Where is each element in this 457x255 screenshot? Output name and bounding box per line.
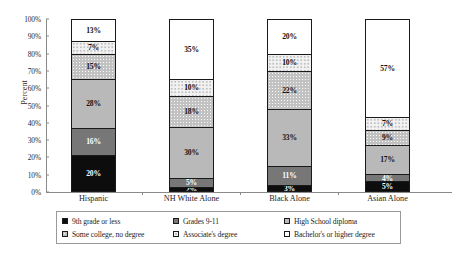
- y-axis-labels: 0%10%20%30%40%50%60%70%80%90%100%: [0, 0, 46, 255]
- bar-segment-value-label: 22%: [282, 87, 297, 95]
- y-axis-tick-label: 70%: [28, 66, 41, 75]
- y-axis-tick-label: 30%: [28, 136, 41, 145]
- y-axis-tick-label: 90%: [28, 32, 41, 41]
- bar-segment: 17%: [366, 146, 409, 175]
- bar-segment: 15%: [72, 55, 115, 81]
- y-axis-tick-mark: [46, 140, 49, 141]
- legend-label: Grades 9-11: [183, 217, 219, 226]
- legend-swatch-icon: [62, 231, 68, 237]
- y-axis-tick-mark: [46, 105, 49, 106]
- x-axis-line: [46, 192, 452, 193]
- bar-segment-value-label: 5%: [382, 183, 393, 191]
- bar-segment-value-label: 18%: [184, 108, 199, 116]
- legend-swatch-icon: [173, 231, 179, 237]
- stacked-bar: 13%7%15%28%16%20%: [71, 19, 116, 192]
- x-axis-category-label: NH White Alone: [144, 194, 239, 203]
- bar-segment-value-label: 20%: [282, 33, 297, 41]
- bar-segment-value-label: 28%: [86, 100, 101, 108]
- bar-segment: 10%: [170, 80, 213, 97]
- bar-segment: 5%: [366, 182, 409, 191]
- bar-segment-value-label: 16%: [86, 138, 101, 146]
- legend-item[interactable]: High School diploma: [284, 215, 395, 228]
- stacked-bar: 35%10%18%30%5%2%: [169, 19, 214, 192]
- chart-figure: 0%10%20%30%40%50%60%70%80%90%100% Percen…: [0, 0, 457, 255]
- x-axis-category-label: Asian Alone: [340, 194, 435, 203]
- legend-swatch-icon: [284, 218, 290, 224]
- y-axis-tick-mark: [46, 19, 49, 20]
- y-axis-tick-label: 50%: [28, 101, 41, 110]
- stacked-bar: 57%7%9%17%4%5%: [365, 19, 410, 192]
- bar-segment: 33%: [268, 110, 311, 167]
- bar-segment: 57%: [366, 20, 409, 118]
- bar-segment: 4%: [366, 175, 409, 182]
- bar-segment: 2%: [170, 188, 213, 191]
- y-axis-tick-mark: [46, 192, 49, 193]
- y-axis-tick-label: 10%: [28, 170, 41, 179]
- y-axis-tick-label: 20%: [28, 153, 41, 162]
- x-axis-tick-mark: [142, 192, 143, 195]
- bar-segment-value-label: 7%: [88, 44, 99, 52]
- bar-segment: 10%: [268, 55, 311, 72]
- bar-segment-value-label: 7%: [382, 120, 393, 128]
- bar-segment-value-label: 30%: [184, 149, 199, 157]
- bar-segment: 18%: [170, 97, 213, 128]
- bar-segment: 7%: [72, 42, 115, 54]
- y-axis-tick-mark: [46, 122, 49, 123]
- x-axis-tick-mark: [338, 192, 339, 195]
- y-axis-title: Percent: [20, 63, 29, 123]
- bar-segment: 9%: [366, 131, 409, 147]
- chart-legend: 9th grade or lessGrades 9-11High School …: [56, 211, 401, 244]
- bar-segment: 3%: [268, 186, 311, 191]
- x-axis-tick-mark: [240, 192, 241, 195]
- legend-item[interactable]: Associate's degree: [173, 228, 284, 241]
- legend-swatch-icon: [284, 231, 290, 237]
- y-axis-tick-mark: [46, 174, 49, 175]
- bar-segment-value-label: 3%: [284, 186, 295, 191]
- legend-item[interactable]: Bachelor's or higher degree: [284, 228, 395, 241]
- legend-item[interactable]: Some college, no degree: [62, 228, 173, 241]
- bar-segment-value-label: 17%: [380, 156, 395, 164]
- legend-label: Some college, no degree: [72, 230, 144, 239]
- legend-label: 9th grade or less: [72, 217, 120, 226]
- bar-segment: 28%: [72, 80, 115, 128]
- y-axis-tick-label: 40%: [28, 118, 41, 127]
- bar-segment-value-label: 10%: [184, 84, 199, 92]
- bar-segment: 30%: [170, 128, 213, 179]
- bar-segment-value-label: 11%: [282, 172, 296, 180]
- y-axis-tick-label: 0%: [31, 188, 41, 197]
- legend-swatch-icon: [62, 218, 68, 224]
- bar-segment-value-label: 57%: [380, 65, 395, 73]
- bar-segment-value-label: 4%: [382, 175, 393, 182]
- y-axis-tick-mark: [46, 36, 49, 37]
- stacked-bar: 20%10%22%33%11%3%: [267, 19, 312, 192]
- y-axis-tick-label: 60%: [28, 84, 41, 93]
- bar-segment-value-label: 10%: [282, 59, 297, 67]
- y-axis-tick-mark: [46, 88, 49, 89]
- bar-segment-value-label: 35%: [184, 46, 199, 54]
- bar-segment-value-label: 15%: [86, 63, 101, 71]
- y-axis-tick-mark: [46, 53, 49, 54]
- bar-segment-value-label: 20%: [86, 170, 101, 178]
- legend-swatch-icon: [173, 218, 179, 224]
- bar-segment: 13%: [72, 20, 115, 42]
- bar-segment-value-label: 2%: [186, 188, 197, 191]
- legend-item[interactable]: 9th grade or less: [62, 215, 173, 228]
- bar-segment-value-label: 9%: [382, 134, 393, 142]
- x-axis-category-label: Hispanic: [46, 194, 141, 203]
- x-axis-category-label: Black Alone: [242, 194, 337, 203]
- bar-segment: 35%: [170, 20, 213, 80]
- legend-label: High School diploma: [294, 217, 357, 226]
- y-axis-tick-mark: [46, 70, 49, 71]
- legend-label: Associate's degree: [183, 230, 237, 239]
- legend-item[interactable]: Grades 9-11: [173, 215, 284, 228]
- bar-segment: 20%: [268, 20, 311, 55]
- bar-segment: 22%: [268, 72, 311, 110]
- legend-label: Bachelor's or higher degree: [294, 230, 375, 239]
- y-axis-tick-label: 100%: [24, 15, 41, 24]
- bar-segment: 5%: [170, 179, 213, 188]
- bar-segment: 7%: [366, 118, 409, 130]
- bar-segment: 16%: [72, 129, 115, 157]
- bar-segment-value-label: 33%: [282, 134, 297, 142]
- bar-segment: 11%: [268, 167, 311, 186]
- bar-segment-value-label: 13%: [86, 27, 101, 35]
